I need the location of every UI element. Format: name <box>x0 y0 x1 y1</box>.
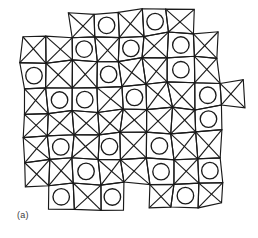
figure-root: (a) <box>0 0 258 238</box>
figure-caption: (a) <box>17 210 29 220</box>
figure-background <box>0 0 258 238</box>
tiling-diagram <box>0 0 258 238</box>
